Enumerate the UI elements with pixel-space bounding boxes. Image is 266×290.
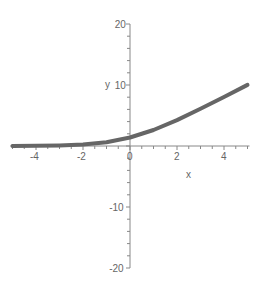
x-tick-label: -2: [77, 151, 86, 162]
y-tick-label: -20: [109, 263, 124, 274]
y-tick-label: -10: [109, 202, 124, 213]
y-tick-label: 20: [115, 19, 127, 30]
y-tick-label: 10: [115, 80, 127, 91]
x-axis-label: x: [186, 169, 191, 180]
x-tick-label: 2: [174, 151, 180, 162]
chart-plot: -4-2024-20-101020 x y: [0, 0, 266, 290]
x-tick-label: 0: [127, 151, 133, 162]
y-axis-label: y: [105, 79, 110, 90]
x-tick-label: 4: [221, 151, 227, 162]
x-tick-label: -4: [30, 151, 39, 162]
